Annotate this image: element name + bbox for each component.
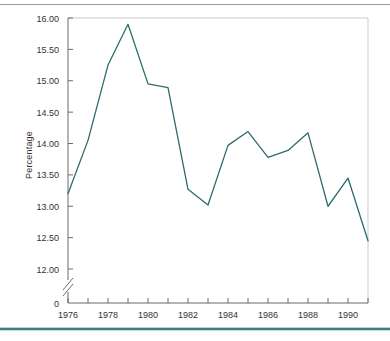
- x-tick-label: 1988: [298, 310, 318, 320]
- percentage-line: [68, 24, 368, 240]
- x-tick-label: 1976: [58, 310, 78, 320]
- y-tick-label: 15.50: [36, 45, 59, 55]
- y-tick-label: 14.50: [36, 108, 59, 118]
- bottom-rule-shadow: [0, 330, 390, 331]
- line-chart-plot: 16.0015.5015.0014.5014.0013.5013.0012.50…: [0, 0, 390, 341]
- y-tick-label: 0: [54, 299, 59, 309]
- x-tick-label: 1978: [98, 310, 118, 320]
- x-tick-label: 1984: [218, 310, 238, 320]
- y-tick-label: 12.50: [36, 233, 59, 243]
- x-axis-ticks: 19761978198019821984198619881990: [58, 298, 368, 320]
- y-tick-label: 16.00: [36, 14, 59, 24]
- data-line-series: [68, 24, 368, 240]
- y-tick-label: 13.00: [36, 202, 59, 212]
- plot-frame: [68, 18, 368, 303]
- x-tick-label: 1982: [178, 310, 198, 320]
- y-tick-label: 12.00: [36, 265, 59, 275]
- y-tick-label: 15.00: [36, 76, 59, 86]
- bottom-divider-rule: [0, 327, 390, 331]
- x-tick-label: 1980: [138, 310, 158, 320]
- x-tick-label: 1990: [338, 310, 358, 320]
- x-tick-label: 1986: [258, 310, 278, 320]
- y-tick-label: 13.50: [36, 170, 59, 180]
- y-tick-label: 14.00: [36, 139, 59, 149]
- chart-figure: Percentage 16.0015.5015.0014.5014.0013.5…: [0, 0, 390, 341]
